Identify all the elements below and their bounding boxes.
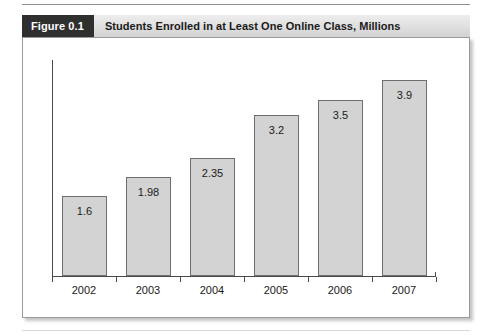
category-labels-layer: 200220032004200520062007 xyxy=(23,38,471,319)
figure-frame: 1.61.982.353.23.53.9 2002200320042005200… xyxy=(22,37,470,318)
x-axis-tick xyxy=(372,277,373,282)
category-label-2003: 2003 xyxy=(116,284,180,297)
figure-header: Figure 0.1 Students Enrolled in at Least… xyxy=(22,15,470,37)
category-label-2005: 2005 xyxy=(244,284,308,297)
x-axis-tick xyxy=(436,277,437,282)
figure-title: Students Enrolled in at Least One Online… xyxy=(94,15,470,37)
category-label-2007: 2007 xyxy=(372,284,436,297)
page-rule-top xyxy=(22,4,470,5)
figure-number-tag: Figure 0.1 xyxy=(22,15,94,37)
category-label-2006: 2006 xyxy=(308,284,372,297)
x-axis-tick xyxy=(180,277,181,282)
x-axis-tick xyxy=(244,277,245,282)
page-rule-bottom xyxy=(22,330,470,331)
x-axis-tick xyxy=(116,277,117,282)
x-axis-tick xyxy=(308,277,309,282)
x-axis-tick xyxy=(52,277,53,282)
category-label-2004: 2004 xyxy=(180,284,244,297)
category-label-2002: 2002 xyxy=(52,284,116,297)
chart-plot-area: 1.61.982.353.23.53.9 2002200320042005200… xyxy=(23,38,471,319)
